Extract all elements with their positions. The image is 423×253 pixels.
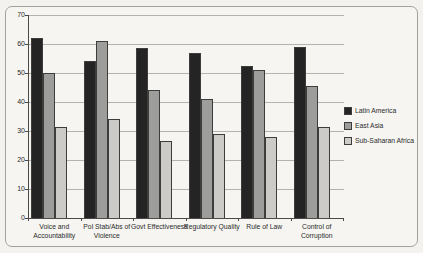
x-axis-category-labels: Voice and AccountabilityPol Stab/Abs of … xyxy=(28,222,343,240)
bar-sub-saharan-africa xyxy=(55,127,67,218)
bar-latin-america xyxy=(136,48,148,218)
x-tick-mark xyxy=(238,218,239,221)
y-axis-label-20: 20 xyxy=(17,156,25,164)
legend-label: East Asia xyxy=(355,122,383,130)
y-axis-labels: 010203040506070 xyxy=(6,0,25,253)
y-tick-mark-10 xyxy=(25,189,28,190)
bar-group-5 xyxy=(239,15,292,218)
y-tick-mark-60 xyxy=(25,44,28,45)
bar-latin-america xyxy=(31,38,43,218)
bar-groups xyxy=(29,15,344,218)
bar-east-asia xyxy=(253,70,265,218)
y-tick-mark-20 xyxy=(25,160,28,161)
bar-group-2 xyxy=(82,15,135,218)
legend-item: Latin America xyxy=(344,107,414,115)
category-label-slot: Control of Corruption xyxy=(291,222,344,240)
bar-east-asia xyxy=(306,86,318,218)
category-label: Rule of Law xyxy=(246,222,282,240)
bar-east-asia xyxy=(201,99,213,218)
bar-east-asia xyxy=(148,90,160,218)
legend-swatch-icon xyxy=(344,107,352,115)
bar-group-1 xyxy=(29,15,82,218)
y-tick-mark-40 xyxy=(25,102,28,103)
bar-group-6 xyxy=(292,15,345,218)
category-label-slot: Regulatory Quality xyxy=(186,222,239,240)
category-label-slot: Pol Stab/Abs of Violence xyxy=(81,222,134,240)
legend-item: Sub-Saharan Africa xyxy=(344,137,414,145)
x-tick-mark xyxy=(291,218,292,221)
category-label: Govt Effectiveness xyxy=(131,222,188,240)
y-axis-label-30: 30 xyxy=(17,127,25,135)
bar-group-4 xyxy=(187,15,240,218)
governance-indicators-bar-chart: 010203040506070 Voice and Accountability… xyxy=(0,0,423,253)
bar-sub-saharan-africa xyxy=(265,137,277,218)
y-axis-label-50: 50 xyxy=(17,69,25,77)
bar-group-3 xyxy=(134,15,187,218)
bar-sub-saharan-africa xyxy=(213,134,225,218)
legend-swatch-icon xyxy=(344,137,352,145)
y-axis-label-40: 40 xyxy=(17,98,25,106)
x-tick-mark xyxy=(133,218,134,221)
x-tick-mark xyxy=(81,218,82,221)
bar-latin-america xyxy=(84,61,96,218)
plot-area xyxy=(28,15,344,219)
bar-east-asia xyxy=(43,73,55,218)
category-label: Pol Stab/Abs of Violence xyxy=(83,222,130,240)
bar-east-asia xyxy=(96,41,108,218)
category-label: Control of Corruption xyxy=(301,222,333,240)
y-tick-mark-30 xyxy=(25,131,28,132)
legend-swatch-icon xyxy=(344,122,352,130)
legend-label: Latin America xyxy=(355,107,396,115)
bar-sub-saharan-africa xyxy=(160,141,172,218)
category-label-slot: Voice and Accountability xyxy=(28,222,81,240)
category-label-slot: Govt Effectiveness xyxy=(133,222,186,240)
bar-sub-saharan-africa xyxy=(318,127,330,218)
legend: Latin AmericaEast AsiaSub-Saharan Africa xyxy=(344,107,414,152)
bar-latin-america xyxy=(241,66,253,218)
y-axis-label-10: 10 xyxy=(17,185,25,193)
legend-label: Sub-Saharan Africa xyxy=(355,137,414,145)
y-tick-mark-70 xyxy=(25,15,28,16)
x-tick-mark xyxy=(186,218,187,221)
x-tick-mark xyxy=(28,218,29,221)
y-axis-label-60: 60 xyxy=(17,40,25,48)
bar-sub-saharan-africa xyxy=(108,119,120,218)
y-axis-label-70: 70 xyxy=(17,11,25,19)
x-tick-mark xyxy=(343,218,344,221)
bar-latin-america xyxy=(294,47,306,218)
y-tick-mark-50 xyxy=(25,73,28,74)
legend-item: East Asia xyxy=(344,122,414,130)
category-label: Regulatory Quality xyxy=(184,222,240,240)
category-label-slot: Rule of Law xyxy=(238,222,291,240)
bar-latin-america xyxy=(189,53,201,218)
category-label: Voice and Accountability xyxy=(33,222,75,240)
